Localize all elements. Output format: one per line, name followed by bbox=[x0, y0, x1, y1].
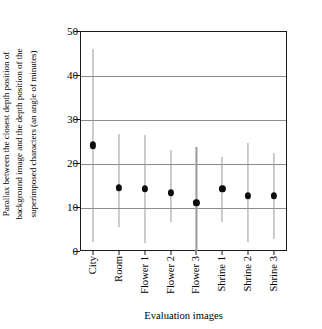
x-tick-mark bbox=[222, 251, 223, 255]
y-axis-title: Parallax between the closest depth posit… bbox=[0, 0, 40, 268]
x-tick-label: Flower 1 bbox=[139, 256, 150, 294]
plot-area bbox=[80, 31, 287, 251]
x-tick-mark bbox=[118, 251, 119, 255]
x-tick-mark bbox=[144, 251, 145, 255]
x-tick-label: Flower 2 bbox=[165, 256, 176, 294]
x-axis-title: Evaluation images bbox=[80, 310, 287, 322]
x-tick-mark bbox=[170, 251, 171, 255]
x-tick-mark bbox=[248, 251, 249, 255]
x-tick-mark bbox=[196, 251, 197, 255]
y-tick-label-20: 20 bbox=[54, 158, 78, 169]
y-tick-label-0: 0 bbox=[54, 246, 78, 257]
gridline-20 bbox=[81, 164, 286, 165]
x-tick-label: Flower 3 bbox=[191, 256, 202, 294]
y-tick-label-40: 40 bbox=[54, 70, 78, 81]
error-bar bbox=[170, 150, 171, 223]
x-tick-label: Shrine 3 bbox=[269, 256, 280, 292]
x-tick-label: Room bbox=[114, 256, 125, 282]
x-tick-label: Shrine 1 bbox=[217, 256, 228, 292]
y-tick-label-30: 30 bbox=[54, 114, 78, 125]
y-tick-label-50: 50 bbox=[54, 26, 78, 37]
gridline-10 bbox=[81, 208, 286, 209]
chart-figure: Parallax between the closest depth posit… bbox=[0, 0, 322, 329]
gridline-30 bbox=[81, 120, 286, 121]
x-tick-label: City bbox=[88, 256, 99, 274]
y-axis-title-container: Parallax between the closest depth posit… bbox=[0, 0, 56, 275]
x-tick-label: Shrine 2 bbox=[243, 256, 254, 292]
gridline-40 bbox=[81, 76, 286, 77]
error-bar bbox=[118, 134, 119, 226]
x-tick-mark bbox=[92, 251, 93, 255]
x-tick-mark bbox=[274, 251, 275, 255]
y-tick-label-10: 10 bbox=[54, 202, 78, 213]
